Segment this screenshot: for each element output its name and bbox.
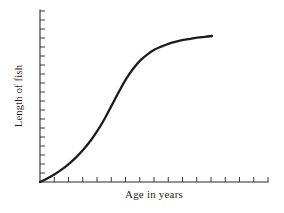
growth-curve-chart: Age in years Length of fish bbox=[0, 0, 284, 213]
y-axis-label: Length of fish bbox=[13, 64, 24, 127]
x-axis-label: Age in years bbox=[125, 188, 183, 200]
chart-figure: Age in years Length of fish bbox=[0, 0, 284, 213]
